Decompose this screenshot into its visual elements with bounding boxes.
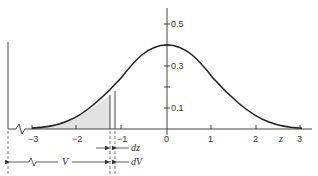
y-tick-label: 0.1 — [171, 103, 184, 113]
normal-distribution-figure: −3 −2 −1 0 1 2 z 3 0.5 0.3 0.1 dz V dV — [0, 0, 318, 176]
x-axis-title: z — [278, 133, 283, 144]
x-tick-label: −3 — [28, 134, 38, 144]
dz-label: dz — [131, 142, 140, 153]
dv-label: dV — [131, 156, 144, 167]
x-tick-label: 1 — [208, 134, 213, 144]
v-annotation: V dV — [9, 156, 144, 167]
chart-canvas: −3 −2 −1 0 1 2 z 3 0.5 0.3 0.1 dz V dV — [0, 0, 318, 176]
y-axis — [164, 8, 170, 135]
x-tick-label: 0 — [164, 134, 169, 144]
x-tick-label: 2 — [253, 134, 258, 144]
y-tick-label: 0.3 — [171, 61, 184, 71]
y-tick-label: 0.5 — [171, 19, 184, 29]
dashed-guides — [8, 131, 115, 176]
x-tick-label: 3 — [297, 134, 302, 144]
x-tick-label: −1 — [117, 134, 127, 144]
v-label: V — [62, 156, 70, 167]
x-tick-label: −2 — [72, 134, 82, 144]
